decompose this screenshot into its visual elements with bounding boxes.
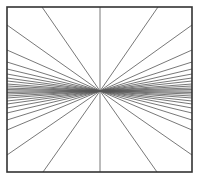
radiating-lines [7,7,192,172]
square-frame [7,7,192,172]
ray-line [100,25,192,91]
illusion-figure [0,0,199,182]
radiating-lines-diagram [0,0,199,182]
ray-line [7,25,100,91]
ray-line [7,91,100,155]
ray-line [100,91,192,155]
